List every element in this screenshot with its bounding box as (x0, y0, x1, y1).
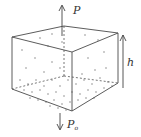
height-label: h (127, 56, 134, 69)
pressure-top-label: P (72, 4, 81, 17)
box-diagram: P Po h (0, 0, 141, 137)
pressure-bottom-label: Po (66, 118, 78, 131)
pressure-bottom-arrow (57, 113, 63, 130)
hidden-edges (12, 26, 118, 89)
box-edges (12, 26, 118, 111)
gas-particles (19, 33, 113, 111)
height-arrow (120, 35, 126, 88)
